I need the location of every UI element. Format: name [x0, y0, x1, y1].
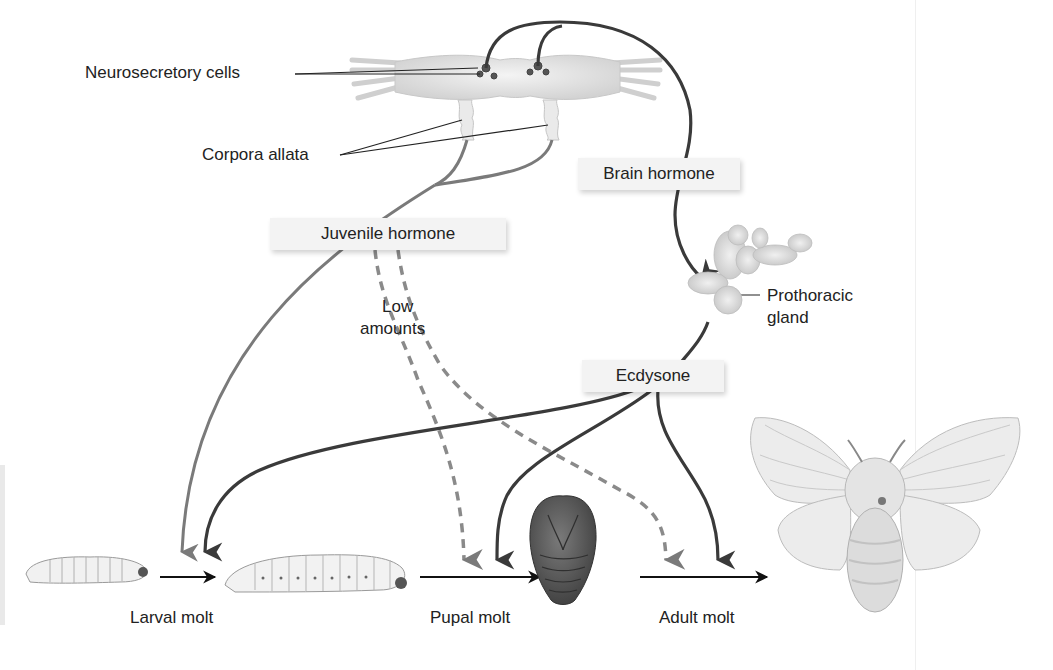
label-gland: gland [767, 308, 809, 328]
label-amounts: amounts [360, 319, 425, 339]
label-prothoracic: Prothoracic [767, 286, 853, 306]
older-larva [225, 555, 407, 592]
label-corpora-allata: Corpora allata [202, 145, 309, 165]
diagram-canvas [0, 0, 1053, 670]
label-ecdysone: Ecdysone [582, 360, 724, 392]
label-low: Low [382, 297, 413, 317]
ecdysone-text: Ecdysone [616, 366, 691, 386]
label-juvenile-hormone: Juvenile hormone [270, 218, 506, 250]
label-adult-molt: Adult molt [659, 608, 735, 628]
brain-hormone-text: Brain hormone [603, 164, 715, 184]
young-larva [26, 557, 148, 583]
label-neurosecretory-cells: Neurosecretory cells [85, 63, 240, 83]
low-amount-arrow-adult [398, 250, 666, 560]
juvenile-hormone-text: Juvenile hormone [321, 224, 455, 244]
label-brain-hormone: Brain hormone [578, 158, 740, 190]
ecdysone-arrow-adult [658, 390, 718, 560]
label-larval-molt: Larval molt [130, 608, 213, 628]
label-pupal-molt: Pupal molt [430, 608, 510, 628]
pupa [530, 496, 596, 605]
brain-illustration [352, 55, 660, 140]
adult-moth [751, 418, 1020, 612]
